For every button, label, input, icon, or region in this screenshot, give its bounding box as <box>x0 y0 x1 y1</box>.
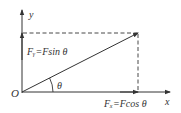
fx-label: Fₓ=Fcos θ <box>103 98 147 109</box>
force-diagram: y x O θ Fᵧ=Fsin θ Fₓ=Fcos θ <box>0 0 181 113</box>
angle-arc <box>50 78 53 92</box>
origin-label: O <box>11 87 19 99</box>
x-axis-label: x <box>164 96 170 107</box>
y-axis-label: y <box>28 9 34 20</box>
angle-label: θ <box>57 80 62 91</box>
fy-label: Fᵧ=Fsin θ <box>26 46 67 57</box>
force-vector <box>22 33 138 92</box>
